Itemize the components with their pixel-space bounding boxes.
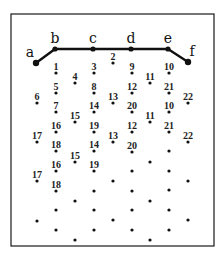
point-label: 10: [164, 61, 174, 72]
lattice-point: [167, 228, 170, 231]
point-label: 6: [35, 91, 40, 102]
lattice-point: [148, 199, 151, 202]
point-label: 18: [51, 179, 61, 190]
point-label: 8: [92, 81, 97, 92]
point-label: 21: [164, 81, 174, 92]
point-label: 20: [127, 140, 137, 151]
point-label: 17: [32, 169, 42, 180]
point-label: 22: [183, 130, 193, 141]
lattice-point: [92, 208, 95, 211]
lattice-point: [35, 219, 38, 222]
lattice-point: [148, 238, 151, 241]
point-label: 18: [51, 139, 61, 150]
lattice-point: [54, 208, 57, 211]
path-node-c: [90, 46, 95, 51]
point-label: 22: [183, 91, 193, 102]
path-node-a: [33, 60, 39, 66]
point-label: 10: [164, 100, 174, 111]
lattice-point: [73, 199, 76, 202]
path-node-label: b: [51, 30, 60, 46]
point-label: 19: [89, 120, 99, 131]
point-label: 11: [145, 110, 154, 121]
path-node-label: a: [26, 44, 34, 60]
point-label: 14: [89, 139, 99, 150]
lattice-point: [130, 169, 133, 172]
point-label: 9: [130, 61, 135, 72]
point-label: 16: [51, 120, 61, 131]
lattice-point: [54, 228, 57, 231]
point-label: 15: [70, 110, 80, 121]
labeled-points: 1571618161841515381419141921313912201220…: [32, 51, 193, 242]
lattice-point: [130, 228, 133, 231]
point-label: 19: [89, 159, 99, 170]
path-node-b: [52, 46, 57, 51]
lattice-point: [92, 189, 95, 192]
lattice-point: [186, 179, 189, 182]
lattice-point: [92, 228, 95, 231]
point-label: 15: [70, 150, 80, 161]
lattice-point: [167, 208, 170, 211]
lattice-path-diagram: abcdef 157161816184151538141914192131391…: [0, 0, 223, 256]
point-label: 11: [145, 71, 154, 82]
lattice-point: [111, 179, 114, 182]
point-label: 13: [108, 91, 118, 102]
point-label: 1: [54, 61, 59, 72]
lattice-point: [167, 149, 170, 152]
lattice-point: [111, 218, 114, 221]
point-label: 20: [127, 100, 137, 111]
point-label: 2: [111, 51, 116, 62]
path-node-label: f: [189, 43, 196, 59]
point-label: 13: [108, 130, 118, 141]
point-label: 3: [92, 61, 97, 72]
lattice-point: [73, 238, 76, 241]
point-label: 14: [89, 100, 99, 111]
point-label: 21: [164, 120, 174, 131]
point-label: 12: [127, 120, 137, 131]
lattice-point: [148, 160, 151, 163]
point-label: 16: [51, 159, 61, 170]
point-label: 12: [127, 81, 137, 92]
lattice-point: [167, 169, 170, 172]
point-label: 17: [32, 130, 42, 141]
point-label: 5: [54, 81, 59, 92]
point-label: 7: [54, 100, 59, 111]
point-label: 4: [73, 71, 78, 82]
path-node-label: c: [89, 30, 97, 46]
lattice-point: [130, 208, 133, 211]
path-node-d: [128, 46, 133, 51]
lattice-point: [167, 188, 170, 191]
path-node-label: e: [164, 30, 172, 46]
lattice-point: [130, 189, 133, 192]
path-node-label: d: [127, 30, 136, 46]
lattice-point: [186, 218, 189, 221]
path-node-f: [185, 59, 191, 65]
path-node-e: [165, 46, 170, 51]
